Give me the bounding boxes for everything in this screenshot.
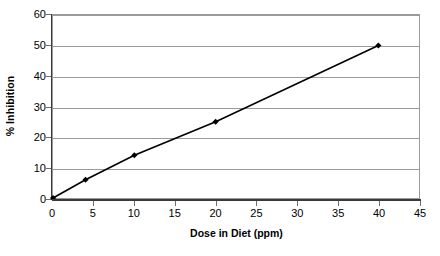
x-axis-tick-label: 35 bbox=[332, 207, 344, 219]
line-chart: % Inhibition 0102030405060 0510152025303… bbox=[0, 0, 440, 256]
data-series-line bbox=[53, 15, 419, 198]
y-axis-tick-label: 40 bbox=[34, 70, 46, 82]
y-axis-tick-mark bbox=[46, 45, 51, 46]
x-axis-tick-mark bbox=[297, 201, 298, 206]
x-axis-tick-mark bbox=[379, 201, 380, 206]
y-axis-tick-mark bbox=[46, 199, 51, 200]
x-axis-tick-label: 20 bbox=[209, 207, 221, 219]
x-axis-title: Dose in Diet (ppm) bbox=[52, 227, 421, 239]
x-axis-tick-label: 5 bbox=[90, 207, 96, 219]
x-axis-tick-label: 10 bbox=[128, 207, 140, 219]
x-axis-tick-mark bbox=[93, 201, 94, 206]
x-axis-tick-labels: 051015202530354045 bbox=[0, 207, 440, 225]
x-axis-tick-mark bbox=[216, 201, 217, 206]
data-point-marker bbox=[375, 42, 381, 48]
y-axis-tick-label: 50 bbox=[34, 39, 46, 51]
y-axis-tick-mark bbox=[46, 14, 51, 15]
y-axis-tick-mark bbox=[46, 168, 51, 169]
y-axis-tick-mark bbox=[46, 107, 51, 108]
data-point-marker bbox=[213, 119, 219, 125]
y-axis-title-label: % Inhibition bbox=[4, 76, 16, 137]
x-axis-tick-label: 15 bbox=[169, 207, 181, 219]
y-axis-tick-label: 60 bbox=[34, 8, 46, 20]
y-axis-tick-label: 30 bbox=[34, 101, 46, 113]
plot-area bbox=[52, 14, 420, 199]
data-point-marker bbox=[82, 177, 88, 183]
x-axis-tick-label: 40 bbox=[373, 207, 385, 219]
data-point-marker bbox=[131, 152, 137, 158]
y-axis-tick-mark bbox=[46, 137, 51, 138]
y-axis-tick-mark bbox=[46, 76, 51, 77]
x-axis-tick-label: 45 bbox=[414, 207, 426, 219]
y-axis-tick-labels: 0102030405060 bbox=[18, 0, 50, 212]
y-axis-title: % Inhibition bbox=[0, 0, 20, 212]
y-axis-tick-label: 10 bbox=[34, 162, 46, 174]
x-axis-tick-label: 25 bbox=[250, 207, 262, 219]
x-axis-tick-mark bbox=[420, 201, 421, 206]
x-axis-tick-mark bbox=[256, 201, 257, 206]
x-axis-tick-label: 30 bbox=[291, 207, 303, 219]
x-axis-tick-label: 0 bbox=[49, 207, 55, 219]
y-axis-tick-label: 20 bbox=[34, 131, 46, 143]
x-axis-tick-mark bbox=[175, 201, 176, 206]
x-axis-tick-mark bbox=[134, 201, 135, 206]
x-axis-tick-mark bbox=[338, 201, 339, 206]
x-axis-line bbox=[52, 199, 421, 201]
